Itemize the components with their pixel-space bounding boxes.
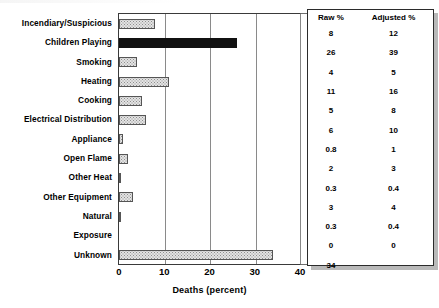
table-row: 0.30.4 <box>308 217 433 236</box>
percent-table: Raw % Adjusted % 8122639451116586100.812… <box>307 9 434 266</box>
table-cell-raw: 5 <box>308 106 354 115</box>
table-cell-raw: 26 <box>308 48 354 57</box>
category-label: Appliance <box>0 130 115 149</box>
table-cell-raw: 11 <box>308 87 354 96</box>
table-cell-adjusted: 8 <box>354 106 433 115</box>
category-label: Unknown <box>0 246 115 265</box>
table-row: 23 <box>308 159 433 178</box>
bar-row <box>119 53 300 72</box>
table-cell-raw: 0.3 <box>308 222 354 231</box>
table-row: 00 <box>308 236 433 255</box>
bar-series <box>119 14 300 264</box>
category-axis-labels: Incendiary/SuspiciousChildren PlayingSmo… <box>0 14 115 265</box>
category-label: Electrical Distribution <box>0 110 115 129</box>
category-label: Other Heat <box>0 168 115 187</box>
table-cell-raw: 34 <box>308 261 354 270</box>
bar-row <box>119 110 300 129</box>
bar-row <box>119 91 300 110</box>
table-cell-raw: 0.3 <box>308 184 354 193</box>
bar <box>119 212 121 222</box>
category-label: Other Equipment <box>0 188 115 207</box>
table-cell-raw: 4 <box>308 68 354 77</box>
bar <box>119 77 169 87</box>
table-header-raw: Raw % <box>308 11 354 24</box>
table-cell-adjusted: 4 <box>354 203 433 212</box>
table-row: 610 <box>308 120 433 139</box>
table-row: 34 <box>308 198 433 217</box>
table-body: 8122639451116586100.81230.30.4340.30.400… <box>308 24 433 275</box>
table-cell-adjusted: 3 <box>354 164 433 173</box>
bar-row <box>119 72 300 91</box>
table-header-adjusted: Adjusted % <box>354 11 433 24</box>
category-label: Cooking <box>0 91 115 110</box>
table-cell-adjusted: 1 <box>354 145 433 154</box>
bar-row <box>119 226 300 245</box>
table-cell-adjusted: 5 <box>354 68 433 77</box>
table-cell-adjusted: 0.4 <box>354 222 433 231</box>
table-row: 1116 <box>308 82 433 101</box>
bar <box>119 173 121 183</box>
chart-figure: Incendiary/SuspiciousChildren PlayingSmo… <box>0 0 439 308</box>
table-cell-adjusted: 16 <box>354 87 433 96</box>
bar-row <box>119 188 300 207</box>
table-row: 45 <box>308 63 433 82</box>
x-axis-ticks: 010203040 <box>118 266 301 280</box>
x-tick-label: 0 <box>116 266 121 277</box>
table-cell-raw: 8 <box>308 29 354 38</box>
bar <box>119 134 123 144</box>
category-label: Incendiary/Suspicious <box>0 14 115 33</box>
bar-row <box>119 33 300 52</box>
table-row: 34 <box>308 256 433 275</box>
table-cell-adjusted: 10 <box>354 126 433 135</box>
bar-row <box>119 168 300 187</box>
table-cell-adjusted: 12 <box>354 29 433 38</box>
category-label: Heating <box>0 72 115 91</box>
plot-area <box>118 13 301 265</box>
table-cell-adjusted: 0 <box>354 241 433 250</box>
bar <box>119 57 137 67</box>
table-cell-raw: 2 <box>308 164 354 173</box>
bar <box>119 154 128 164</box>
x-tick-label: 40 <box>295 266 306 277</box>
bar-row <box>119 14 300 33</box>
bar-row <box>119 130 300 149</box>
bar <box>119 19 155 29</box>
bar <box>119 96 142 106</box>
table-cell-raw: 6 <box>308 126 354 135</box>
category-label: Exposure <box>0 226 115 245</box>
bar <box>119 38 237 48</box>
bar <box>119 192 133 202</box>
x-tick-label: 10 <box>159 266 170 277</box>
table-cell-adjusted: 0.4 <box>354 184 433 193</box>
table-cell-raw: 3 <box>308 203 354 212</box>
table-row: 2639 <box>308 43 433 62</box>
table-cell-raw: 0 <box>308 241 354 250</box>
table-row: 58 <box>308 101 433 120</box>
table-header-row: Raw % Adjusted % <box>308 11 433 24</box>
table-row: 0.81 <box>308 140 433 159</box>
category-label: Open Flame <box>0 149 115 168</box>
category-label: Children Playing <box>0 33 115 52</box>
bar <box>119 250 273 260</box>
bar-row <box>119 246 300 265</box>
table-cell-raw: 0.8 <box>308 145 354 154</box>
bar <box>119 115 146 125</box>
x-tick-label: 30 <box>249 266 260 277</box>
table-cell-adjusted: 39 <box>354 48 433 57</box>
bar-row <box>119 207 300 226</box>
x-axis-label: Deaths (percent) <box>118 285 301 295</box>
table-row: 0.30.4 <box>308 178 433 197</box>
x-tick-label: 20 <box>204 266 215 277</box>
category-label: Natural <box>0 207 115 226</box>
table-row: 812 <box>308 24 433 43</box>
bar-chart: Incendiary/SuspiciousChildren PlayingSmo… <box>0 0 310 308</box>
category-label: Smoking <box>0 53 115 72</box>
bar-row <box>119 149 300 168</box>
